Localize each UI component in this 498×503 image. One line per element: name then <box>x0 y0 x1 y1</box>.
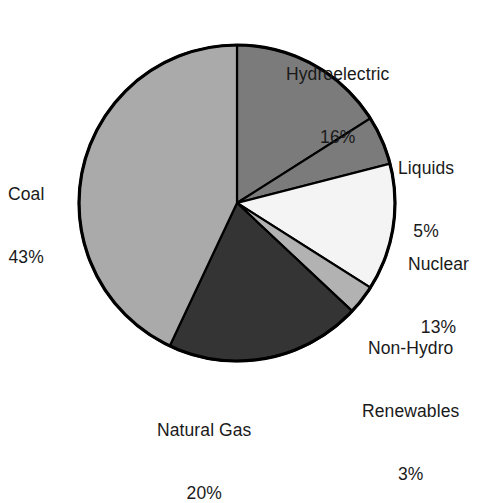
pie-label-non-hydro-renewables-name-line2: Renewables <box>362 401 459 422</box>
pie-label-non-hydro-renewables: Non-Hydro Renewables 3% <box>362 296 459 503</box>
pie-label-natural-gas: Natural Gas 20% <box>157 378 251 503</box>
pie-label-non-hydro-renewables-name-line1: Non-Hydro <box>362 338 459 359</box>
pie-label-coal-value: 43% <box>8 247 44 268</box>
pie-label-natural-gas-value: 20% <box>157 483 251 503</box>
pie-label-natural-gas-name: Natural Gas <box>157 420 251 441</box>
pie-label-hydroelectric: Hydroelectric 16% <box>286 22 389 190</box>
pie-label-liquids-name: Liquids <box>398 158 454 179</box>
pie-label-nuclear-name: Nuclear <box>408 254 469 275</box>
pie-label-hydroelectric-value: 16% <box>286 127 389 148</box>
pie-label-coal: Coal 43% <box>8 142 44 310</box>
pie-label-coal-name: Coal <box>8 184 44 205</box>
pie-label-hydroelectric-name: Hydroelectric <box>286 64 389 85</box>
pie-label-non-hydro-renewables-value: 3% <box>362 464 459 485</box>
